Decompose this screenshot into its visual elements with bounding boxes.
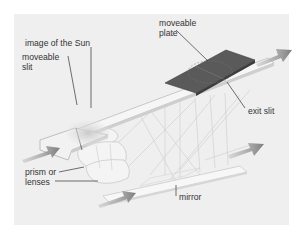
- label-mirror: mirror: [179, 192, 202, 202]
- label-prism-2: lenses: [25, 177, 50, 187]
- sun-image: [66, 120, 110, 146]
- label-moveable-slit-2: slit: [22, 62, 33, 72]
- label-moveable-slit-1: moveable: [22, 52, 59, 62]
- label-moveable-plate-2: plate: [159, 28, 178, 38]
- label-prism-1: prism or: [25, 167, 56, 177]
- label-image-of-sun: image of the Sun: [25, 38, 90, 48]
- label-moveable-plate-1: moveable: [159, 18, 196, 28]
- spectroheliograph-diagram: image of the Sun moveable slit moveable …: [0, 0, 303, 239]
- label-exit-slit: exit slit: [248, 106, 275, 116]
